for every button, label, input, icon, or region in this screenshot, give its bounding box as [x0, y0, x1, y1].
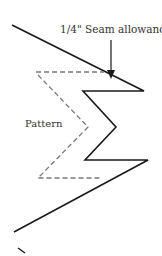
- pointer-arrow-head-icon: [107, 70, 115, 79]
- pattern-label: Pattern: [25, 118, 63, 129]
- continuation-mark: [18, 248, 25, 253]
- seam-allowance-label: 1/4" Seam allowance: [60, 23, 162, 35]
- seam-allowance-diagram: 1/4" Seam allowance Pattern: [0, 0, 162, 256]
